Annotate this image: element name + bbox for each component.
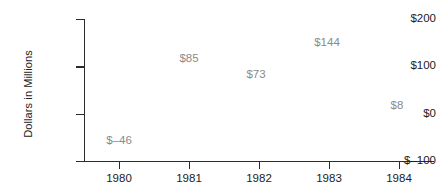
x-axis-tick [189, 162, 190, 169]
y-axis-line [84, 19, 85, 162]
y-axis-tick-label: $100 [362, 59, 436, 71]
y-axis-tick-label: $200 [362, 12, 436, 24]
y-axis-tick [76, 114, 84, 115]
data-point-label-1983: $144 [297, 36, 357, 48]
data-point-label-1984: $8 [367, 99, 427, 111]
y-axis-tick [76, 66, 84, 67]
x-axis-tick [119, 162, 120, 169]
x-axis-tick [259, 162, 260, 169]
x-axis-tick [329, 162, 330, 169]
x-axis-tick-label: 1984 [369, 172, 429, 184]
data-point-label-1980: $–46 [89, 134, 149, 146]
data-point-label-1982: $73 [226, 68, 286, 80]
x-axis-tick-label: 1981 [159, 172, 219, 184]
y-axis-tick [76, 161, 84, 162]
x-axis-tick [399, 162, 400, 169]
x-axis-tick-label: 1980 [89, 172, 149, 184]
y-axis-tick [76, 19, 84, 20]
x-axis-tick-label: 1983 [299, 172, 359, 184]
chart-container: Dollars in Millions $200 $100 $0 $–100 1… [0, 0, 436, 192]
x-axis-tick-label: 1982 [229, 172, 289, 184]
y-axis-title: Dollars in Millions [22, 19, 34, 169]
data-point-label-1981: $85 [159, 52, 219, 64]
